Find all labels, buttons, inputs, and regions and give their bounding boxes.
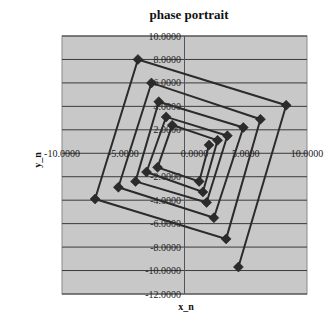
y-tick-label: -10.0000 bbox=[145, 265, 181, 276]
y-tick-label: -8.0000 bbox=[150, 242, 181, 253]
x-axis-label: x_n bbox=[178, 301, 194, 312]
y-tick-label: 10.0000 bbox=[149, 31, 182, 42]
y-tick-label: 8.0000 bbox=[154, 54, 182, 65]
phase-portrait-chart: phase portrait 10.00008.00006.00004.0000… bbox=[0, 0, 336, 321]
x-tick-label: -5.0000 bbox=[108, 148, 139, 159]
x-tick-label: -10.0000 bbox=[44, 148, 80, 159]
x-tick-label: 10.0000 bbox=[291, 148, 324, 159]
y-axis-label: y_n bbox=[32, 152, 43, 168]
chart-title: phase portrait bbox=[149, 7, 229, 22]
x-tick-label: 0.0000 bbox=[181, 148, 209, 159]
y-tick-label: -4.0000 bbox=[150, 195, 181, 206]
y-tick-label: -12.0000 bbox=[145, 289, 181, 300]
y-tick-label: 6.0000 bbox=[154, 77, 182, 88]
